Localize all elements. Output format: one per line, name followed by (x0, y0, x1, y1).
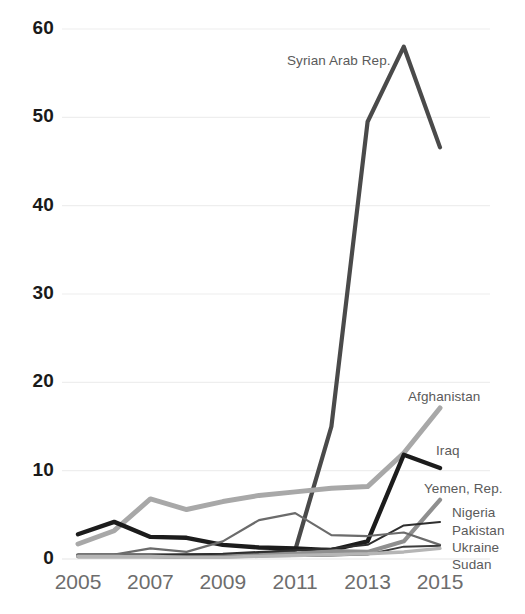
series-line-syrian-arab-rep (78, 47, 440, 556)
chart-plot-area (0, 0, 525, 614)
x-axis-tick-label: 2007 (110, 570, 190, 594)
y-axis-tick-label: 30 (8, 282, 54, 304)
x-axis-tick-label: 2009 (183, 570, 263, 594)
series-label-pakistan: Pakistan (452, 523, 505, 538)
series-label-sudan: Sudan (452, 557, 492, 572)
y-axis-tick-label: 0 (8, 547, 54, 569)
x-axis-tick-label: 2015 (400, 570, 480, 594)
series-label-yemen-rep: Yemen, Rep. (424, 481, 503, 496)
series-lines (78, 47, 440, 558)
y-axis-tick-label: 60 (8, 17, 54, 39)
y-axis-tick-label: 10 (8, 459, 54, 481)
series-label-syrian-arab-rep: Syrian Arab Rep. (287, 53, 391, 68)
series-line-afghanistan (78, 408, 440, 544)
x-axis-tick-label: 2005 (38, 570, 118, 594)
x-axis-tick-label: 2011 (255, 570, 335, 594)
series-label-iraq: Iraq (436, 443, 460, 458)
series-label-ukraine: Ukraine (452, 540, 499, 555)
y-axis-tick-label: 20 (8, 370, 54, 392)
y-axis-tick-label: 40 (8, 194, 54, 216)
x-axis-tick-label: 2013 (328, 570, 408, 594)
y-axis-tick-label: 50 (8, 105, 54, 127)
line-chart: 6050403020100 200520072009201120132015 S… (0, 0, 525, 614)
series-label-nigeria: Nigeria (452, 505, 495, 520)
series-label-afghanistan: Afghanistan (408, 389, 480, 404)
